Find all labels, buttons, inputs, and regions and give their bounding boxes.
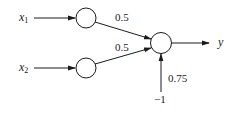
bias-input-label: −1 [154, 94, 166, 105]
weight-label-1: 0.5 [115, 12, 129, 23]
perceptron-diagram: x1 x2 0.5 0.5 y 0.75 −1 [0, 0, 235, 115]
edge-node1-to-output [95, 22, 151, 39]
input-label-x1: x1 [19, 11, 28, 25]
output-label-y: y [218, 36, 223, 48]
input-node-1 [76, 8, 96, 28]
output-node [151, 33, 172, 54]
input-label-x2: x2 [19, 61, 28, 75]
weight-label-2: 0.5 [115, 42, 129, 53]
input-node-2 [76, 58, 96, 78]
bias-weight-label: 0.75 [168, 73, 187, 84]
